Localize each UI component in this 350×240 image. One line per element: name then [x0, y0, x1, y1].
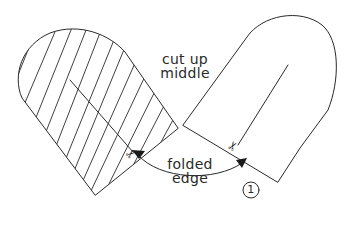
cut-label-line2: middle [150, 66, 220, 80]
step-number-label: 1 [245, 184, 257, 196]
fold-label-line2: edge [160, 171, 220, 185]
right-cut-line [238, 65, 288, 145]
folded-edge-label: folded edge [160, 157, 220, 185]
cut-up-middle-label: cut up middle [150, 52, 220, 80]
cut-label-line1: cut up [150, 52, 220, 66]
left-cut-line [70, 80, 133, 152]
fold-label-line1: folded [160, 157, 220, 171]
arrowhead-right-icon [236, 158, 247, 168]
